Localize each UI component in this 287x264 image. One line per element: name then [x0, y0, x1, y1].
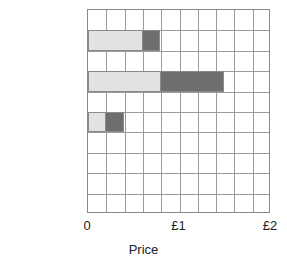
bar-segment-dark — [160, 71, 224, 91]
bar-segment-dark — [142, 30, 160, 50]
bar-segment-light — [88, 30, 143, 50]
x-axis-title: Price — [0, 242, 287, 257]
grid-line-horizontal — [88, 153, 269, 154]
bar-segment-light — [88, 112, 106, 132]
bar-segment-light — [88, 71, 161, 91]
grid-line-horizontal — [88, 132, 269, 133]
grid-line-horizontal — [88, 92, 269, 93]
grid-line-vertical — [161, 10, 162, 212]
x-tick-label-2: £2 — [263, 218, 277, 233]
grid-line-vertical — [198, 10, 199, 212]
grid-line-vertical — [253, 10, 254, 212]
grid-line-vertical — [180, 10, 181, 212]
plot-area — [87, 9, 270, 213]
bar-oven-chips — [88, 71, 223, 91]
x-tick-label-0: 0 — [83, 218, 90, 233]
grid-line-horizontal — [88, 51, 269, 52]
bar-marmalade — [88, 30, 159, 50]
bar-cat-food — [88, 112, 123, 132]
grid-line-vertical — [234, 10, 235, 212]
x-tick-label-1: £1 — [171, 218, 185, 233]
grid-line-horizontal — [88, 173, 269, 174]
grid-line-vertical — [216, 10, 217, 212]
grid-line-horizontal — [88, 194, 269, 195]
bar-segment-dark — [105, 112, 123, 132]
